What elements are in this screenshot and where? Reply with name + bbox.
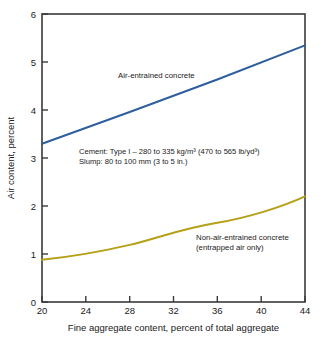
y-tick-label-6: 6 xyxy=(31,9,36,20)
x-axis-tick-labels: 20 24 28 32 36 40 44 xyxy=(37,305,311,316)
y-tick-label-0: 0 xyxy=(31,297,36,308)
x-tick-label-28: 28 xyxy=(124,305,135,316)
y-axis-title: Air content, percent xyxy=(5,116,16,199)
y-tick-label-2: 2 xyxy=(31,201,36,212)
y-axis-tick-labels: 0 1 2 3 4 5 6 xyxy=(31,9,36,308)
y-tick-label-4: 4 xyxy=(31,105,36,116)
x-tick-label-24: 24 xyxy=(81,305,92,316)
y-tick-label-3: 3 xyxy=(31,153,36,164)
x-tick-label-36: 36 xyxy=(212,305,223,316)
air-entrained-label-group: Air-entrained concrete xyxy=(118,71,195,80)
x-axis-title: Fine aggregate content, percent of total… xyxy=(68,322,279,333)
x-tick-label-40: 40 xyxy=(256,305,267,316)
non-air-entrained-series-label-line2: (entrapped air only) xyxy=(196,243,264,252)
conditions-annotation-line2: Slump: 80 to 100 mm (3 to 5 in.) xyxy=(79,157,188,166)
air-entrained-series-label: Air-entrained concrete xyxy=(118,71,195,80)
air-content-vs-fine-aggregate-chart: 0 1 2 3 4 5 6 20 24 28 32 36 40 44 xyxy=(0,0,321,341)
x-tick-label-32: 32 xyxy=(168,305,179,316)
conditions-annotation-line1: Cement: Type I – 280 to 335 kg/m³ (470 t… xyxy=(79,147,260,156)
chart-container: 0 1 2 3 4 5 6 20 24 28 32 36 40 44 xyxy=(0,0,321,341)
y-tick-label-1: 1 xyxy=(31,249,36,260)
non-air-entrained-series-label-line1: Non-air-entrained concrete xyxy=(196,233,289,242)
x-tick-label-44: 44 xyxy=(300,305,311,316)
y-tick-label-5: 5 xyxy=(31,57,36,68)
x-tick-label-20: 20 xyxy=(37,305,48,316)
